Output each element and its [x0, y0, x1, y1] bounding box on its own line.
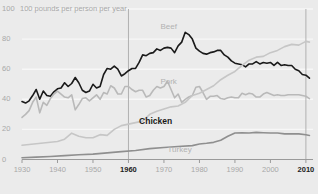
- meat-consumption-chart: 100806040200 100 pounds per person per y…: [0, 0, 318, 194]
- series-label-turkey: Turkey: [168, 145, 192, 154]
- y-axis-label-100: 100: [2, 5, 15, 13]
- x-axis-label-1960: 1960: [120, 166, 137, 174]
- x-axis-label-1990: 1990: [227, 166, 244, 174]
- x-axis-label-1940: 1940: [49, 166, 66, 174]
- x-axis-label-2000: 2000: [262, 166, 279, 174]
- y-axis-label-20: 20: [2, 125, 11, 133]
- series-lines: [22, 32, 309, 157]
- series-line-turkey: [22, 132, 309, 157]
- x-axis-label-1980: 1980: [191, 166, 208, 174]
- y-axis-label-60: 60: [2, 65, 11, 73]
- x-axis-label-2010: 2010: [298, 166, 315, 174]
- y-axis-unit-note: 100 pounds per person per year: [20, 5, 127, 13]
- x-axis-label-1930: 1930: [14, 166, 31, 174]
- highlight-year-markers: [128, 9, 305, 160]
- x-axis-label-1950: 1950: [85, 166, 102, 174]
- series-label-pork: Pork: [160, 77, 176, 86]
- y-axis-label-0: 0: [2, 156, 6, 164]
- x-tick-marks: [22, 160, 306, 164]
- x-axis-label-1970: 1970: [156, 166, 173, 174]
- series-label-chicken: Chicken: [139, 117, 172, 126]
- y-axis-label-80: 80: [2, 35, 11, 43]
- y-axis-label-40: 40: [2, 95, 11, 103]
- series-label-beef: Beef: [160, 22, 176, 31]
